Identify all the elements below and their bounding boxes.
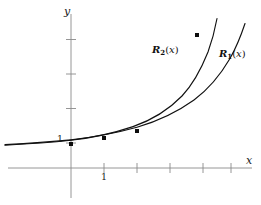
math-plot-figure: y x 1 1 R2(x) R1(x) xyxy=(0,0,261,205)
data-point xyxy=(195,33,199,37)
x-tick-label-1: 1 xyxy=(101,172,107,182)
curve-label-r2: R2(x) xyxy=(152,45,179,56)
y-axis-label: y xyxy=(64,6,70,17)
curve-r2 xyxy=(5,19,217,146)
data-point xyxy=(102,136,106,140)
y-tick-label-1: 1 xyxy=(57,134,63,144)
data-point xyxy=(135,129,139,133)
curve-label-r2-close: ) xyxy=(175,44,179,55)
curve-label-r1-close: ) xyxy=(242,48,246,59)
data-point xyxy=(69,142,73,146)
curve-label-r1: R1(x) xyxy=(219,49,246,60)
x-axis-label: x xyxy=(246,155,252,166)
plot-canvas xyxy=(0,0,261,205)
curve-r1 xyxy=(5,24,245,145)
data-points xyxy=(69,33,199,146)
